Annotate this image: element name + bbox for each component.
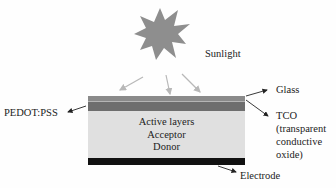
active-label: Active layers (88, 116, 245, 129)
sunlight-label: Sunlight (205, 48, 241, 60)
sun-icon (134, 8, 190, 60)
electrode-layer (88, 158, 245, 165)
tco-label: TCO (276, 110, 297, 122)
tco-desc-2: conductive (276, 136, 322, 148)
tco-layer (88, 102, 245, 111)
acceptor-label: Acceptor (88, 129, 245, 142)
electrode-label: Electrode (240, 170, 280, 182)
tco-desc-3: oxide) (276, 149, 303, 161)
tco-desc-1: (transparent (276, 123, 326, 135)
solar-cell-diagram: Active layers Acceptor Donor Sunlight Gl… (0, 0, 336, 188)
pedot-label: PEDOT:PSS (4, 107, 58, 119)
active-layer-text: Active layers Acceptor Donor (88, 116, 245, 154)
donor-label: Donor (88, 141, 245, 154)
glass-label: Glass (276, 84, 299, 96)
